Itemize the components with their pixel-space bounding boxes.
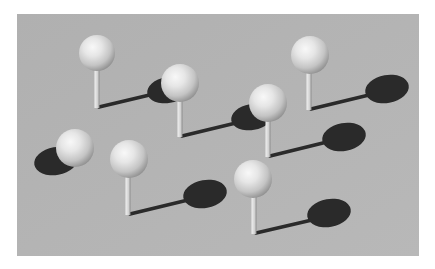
pin-5 <box>56 129 94 167</box>
stem <box>178 101 183 137</box>
sphere <box>234 160 272 198</box>
sphere <box>291 36 329 74</box>
stem <box>95 70 100 108</box>
stem <box>252 197 257 234</box>
scene <box>0 0 435 269</box>
stem <box>307 73 312 110</box>
sphere <box>79 35 115 71</box>
render-canvas <box>0 0 435 269</box>
sphere <box>249 84 287 122</box>
sphere <box>161 64 199 102</box>
stem <box>266 121 271 157</box>
stem <box>126 177 131 215</box>
sphere <box>56 129 94 167</box>
sphere <box>110 140 148 178</box>
